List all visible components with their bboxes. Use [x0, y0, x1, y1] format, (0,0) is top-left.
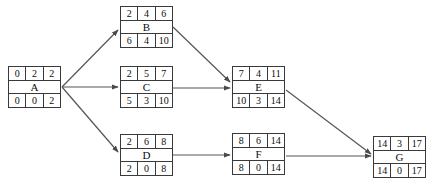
edge-a-to-d: [62, 87, 118, 152]
node-e-label: E: [233, 80, 284, 94]
node-f-float: 0: [250, 161, 267, 174]
node-e[interactable]: 7 4 11 E 10 3 14: [232, 66, 285, 108]
edge-b-to-e: [173, 27, 230, 82]
node-e-early-start: 7: [233, 67, 250, 80]
node-c-late-finish: 10: [156, 94, 172, 107]
node-c-duration: 5: [138, 67, 155, 80]
node-b-duration: 4: [138, 7, 155, 20]
node-e-label-row: E: [233, 81, 284, 94]
node-a-bottom-row: 0 0 2: [9, 93, 60, 107]
node-a-label: A: [9, 80, 60, 94]
node-b-early-start: 2: [121, 7, 138, 20]
node-a-late-finish: 2: [44, 94, 60, 107]
node-d-late-finish: 8: [156, 162, 172, 175]
node-d-early-finish: 8: [156, 135, 172, 148]
network-diagram: 0 2 2 A 0 0 2 2 4 6 B 6 4 10 2 5: [0, 0, 431, 182]
node-g-float: 0: [391, 164, 408, 177]
node-a-label-row: A: [9, 81, 60, 94]
node-d[interactable]: 2 6 8 D 2 0 8: [120, 134, 173, 176]
node-d-label: D: [121, 148, 172, 162]
node-a-top-row: 0 2 2: [9, 67, 60, 81]
node-a-late-start: 0: [9, 94, 26, 107]
node-f-duration: 6: [250, 134, 267, 147]
node-b-late-start: 6: [121, 34, 138, 47]
node-g-late-finish: 17: [409, 164, 425, 177]
node-f-late-start: 8: [233, 161, 250, 174]
node-g-duration: 3: [391, 137, 408, 150]
node-c-early-finish: 7: [156, 67, 172, 80]
edge-a-to-b: [62, 30, 118, 87]
node-d-duration: 6: [138, 135, 155, 148]
node-f-label: F: [233, 147, 284, 161]
node-g-early-finish: 17: [409, 137, 425, 150]
node-g-top-row: 14 3 17: [374, 137, 425, 151]
node-f-late-finish: 14: [268, 161, 284, 174]
node-b-label-row: B: [121, 21, 172, 34]
node-g-label: G: [374, 150, 425, 164]
node-g[interactable]: 14 3 17 G 14 0 17: [373, 136, 426, 178]
node-b-label: B: [121, 20, 172, 34]
node-d-float: 0: [138, 162, 155, 175]
edge-e-to-g: [286, 90, 371, 154]
node-d-label-row: D: [121, 149, 172, 162]
node-f-top-row: 8 6 14: [233, 134, 284, 148]
node-a-duration: 2: [26, 67, 43, 80]
node-a-early-start: 0: [9, 67, 26, 80]
node-g-bottom-row: 14 0 17: [374, 163, 425, 177]
node-b[interactable]: 2 4 6 B 6 4 10: [120, 6, 173, 48]
node-d-bottom-row: 2 0 8: [121, 161, 172, 175]
node-f-early-finish: 14: [268, 134, 284, 147]
node-b-top-row: 2 4 6: [121, 7, 172, 21]
node-c-late-start: 5: [121, 94, 138, 107]
node-c-label: C: [121, 80, 172, 94]
node-a[interactable]: 0 2 2 A 0 0 2: [8, 66, 61, 108]
node-f[interactable]: 8 6 14 F 8 0 14: [232, 133, 285, 175]
node-a-early-finish: 2: [44, 67, 60, 80]
node-g-late-start: 14: [374, 164, 391, 177]
node-e-top-row: 7 4 11: [233, 67, 284, 81]
node-e-early-finish: 11: [268, 67, 284, 80]
node-b-bottom-row: 6 4 10: [121, 33, 172, 47]
node-d-late-start: 2: [121, 162, 138, 175]
node-b-early-finish: 6: [156, 7, 172, 20]
edge-layer: [0, 0, 431, 182]
node-e-late-start: 10: [233, 94, 250, 107]
node-c-label-row: C: [121, 81, 172, 94]
node-b-float: 4: [138, 34, 155, 47]
node-f-label-row: F: [233, 148, 284, 161]
node-e-bottom-row: 10 3 14: [233, 93, 284, 107]
node-e-float: 3: [250, 94, 267, 107]
node-a-float: 0: [26, 94, 43, 107]
node-g-label-row: G: [374, 151, 425, 164]
node-f-bottom-row: 8 0 14: [233, 160, 284, 174]
node-c-top-row: 2 5 7: [121, 67, 172, 81]
node-d-top-row: 2 6 8: [121, 135, 172, 149]
node-c[interactable]: 2 5 7 C 5 3 10: [120, 66, 173, 108]
node-c-early-start: 2: [121, 67, 138, 80]
node-c-float: 3: [138, 94, 155, 107]
node-e-duration: 4: [250, 67, 267, 80]
node-g-early-start: 14: [374, 137, 391, 150]
node-b-late-finish: 10: [156, 34, 172, 47]
node-f-early-start: 8: [233, 134, 250, 147]
node-c-bottom-row: 5 3 10: [121, 93, 172, 107]
node-e-late-finish: 14: [268, 94, 284, 107]
node-d-early-start: 2: [121, 135, 138, 148]
